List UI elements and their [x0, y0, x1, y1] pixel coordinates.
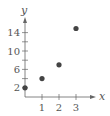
y-axis-arrow-icon	[23, 17, 27, 23]
y-tick-label-2: 2	[14, 82, 20, 93]
y-axis-label: y	[20, 4, 28, 17]
x-tick-label-2: 2	[56, 102, 62, 113]
y-tick-label-6: 6	[14, 64, 20, 75]
data-point	[22, 85, 27, 90]
y-tick-label-14: 14	[7, 27, 20, 38]
data-points	[22, 26, 78, 91]
x-axis-arrow-icon	[90, 95, 96, 99]
x-axis-label: x	[99, 90, 106, 103]
data-point	[56, 62, 61, 67]
data-point	[39, 76, 44, 81]
scatter-chart: y x 2 6 10 14 1 2 3	[0, 0, 110, 116]
x-tick-label-3: 3	[73, 102, 79, 113]
x-tick-label-1: 1	[39, 102, 45, 113]
data-point	[73, 26, 78, 31]
y-tick-label-10: 10	[7, 46, 20, 57]
